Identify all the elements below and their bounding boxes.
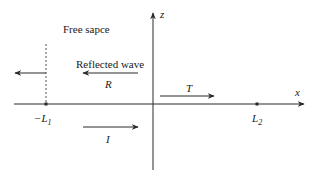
incident-symbol: I bbox=[105, 133, 111, 145]
free-space-label: Free sapce bbox=[63, 23, 110, 35]
reflected-symbol: R bbox=[104, 78, 112, 90]
marker-right-label: L2 bbox=[251, 112, 262, 127]
marker-left-label: −L1 bbox=[34, 112, 52, 127]
transmitted-symbol: T bbox=[186, 82, 193, 94]
x-axis-label: x bbox=[294, 86, 300, 98]
wave-diagram: x z Free sapce −L1 Reflected wave R T L2… bbox=[0, 0, 317, 182]
reflected-wave-caption: Reflected wave bbox=[76, 58, 144, 70]
marker-left bbox=[45, 103, 48, 106]
marker-right bbox=[256, 103, 259, 106]
z-axis-label: z bbox=[159, 8, 165, 20]
